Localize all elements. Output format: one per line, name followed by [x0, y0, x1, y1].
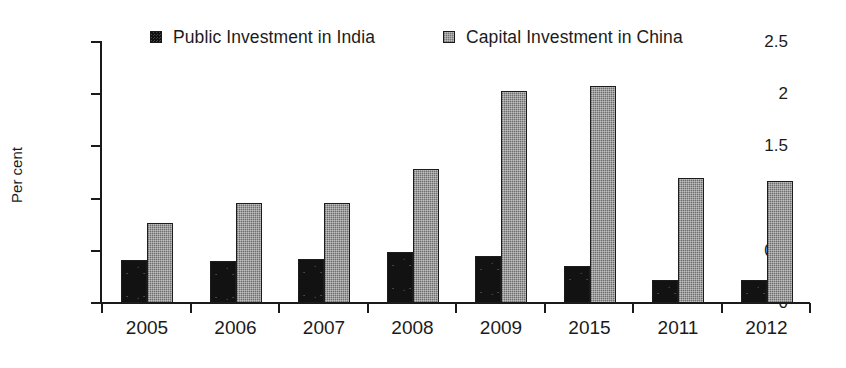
- x-axis-tick: [278, 303, 280, 313]
- x-axis-tick: [367, 303, 369, 313]
- y-axis-title: Per cent: [8, 147, 25, 203]
- bar-2009-public-investment-india: [475, 256, 501, 303]
- bar-chart-figure: Public Investment in India Capital Inves…: [0, 0, 846, 368]
- x-axis-tick: [190, 303, 192, 313]
- x-axis-tick: [101, 303, 103, 313]
- bar-2008-capital-investment-china: [413, 169, 439, 303]
- x-axis-tick: [721, 303, 723, 313]
- y-axis-tick-label: 1.5: [764, 136, 788, 156]
- x-axis-tick: [455, 303, 457, 313]
- bar-2009-capital-investment-china: [501, 91, 527, 303]
- bar-2006-public-investment-india: [210, 261, 236, 303]
- bar-2012-capital-investment-china: [767, 181, 793, 303]
- bar-2011-public-investment-india: [652, 280, 678, 303]
- bar-2008-public-investment-india: [387, 252, 413, 303]
- bar-2007-public-investment-india: [298, 259, 324, 303]
- bar-2015-public-investment-india: [564, 266, 590, 303]
- y-axis-tick-label: 2: [779, 84, 788, 104]
- y-axis-tick-label: 2.5: [764, 32, 788, 52]
- x-axis-tick-label-2005: 2005: [126, 317, 168, 339]
- bar-2011-capital-investment-china: [678, 178, 704, 303]
- x-axis-tick-label-2008: 2008: [391, 317, 433, 339]
- y-axis-tick: [91, 93, 102, 95]
- y-axis-tick: [91, 250, 102, 252]
- x-axis-tick-label-2015: 2015: [568, 317, 610, 339]
- x-axis-tick-label-2006: 2006: [214, 317, 256, 339]
- bar-2005-public-investment-india: [121, 260, 147, 303]
- x-axis-tick: [544, 303, 546, 313]
- bar-2015-capital-investment-china: [590, 86, 616, 303]
- x-axis-tick-label-2012: 2012: [745, 317, 787, 339]
- x-axis-tick-label-2009: 2009: [480, 317, 522, 339]
- x-axis-tick-label-2007: 2007: [303, 317, 345, 339]
- bar-2012-public-investment-india: [741, 280, 767, 303]
- y-axis-tick: [91, 145, 102, 147]
- bar-2006-capital-investment-china: [236, 203, 262, 303]
- x-axis-tick: [632, 303, 634, 313]
- bar-2007-capital-investment-china: [324, 203, 350, 303]
- y-axis-line: [100, 41, 102, 304]
- x-axis-tick-label-2011: 2011: [658, 317, 699, 339]
- plot-area: 00.511.522.5: [100, 42, 812, 303]
- y-axis-tick: [91, 198, 102, 200]
- bar-2005-capital-investment-china: [147, 223, 173, 303]
- x-axis-tick: [809, 303, 811, 313]
- y-axis-tick: [91, 41, 102, 43]
